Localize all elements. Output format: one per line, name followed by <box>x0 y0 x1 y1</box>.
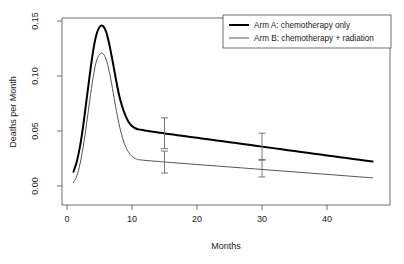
legend-border <box>223 15 391 48</box>
legend-label-arm-b: Arm B: chemotherapy + radiation <box>254 34 374 43</box>
y-tick-label: 0.05 <box>30 122 40 140</box>
x-axis-title: Months <box>211 241 241 251</box>
y-axis-title: Deaths per Month <box>8 76 18 148</box>
x-tick-label: 0 <box>64 214 69 224</box>
legend-label-arm-a: Arm A: chemotherapy only <box>254 21 351 30</box>
x-tick-label: 10 <box>127 214 137 224</box>
y-tick-label: 0.15 <box>30 12 40 30</box>
y-tick-label: 0.00 <box>30 177 40 195</box>
x-tick-label: 20 <box>192 214 202 224</box>
x-tick-label: 30 <box>257 214 267 224</box>
x-tick-label: 40 <box>322 214 332 224</box>
chart-container: 010203040 0.000.050.100.15 Months Deaths… <box>0 0 404 264</box>
y-tick-label: 0.10 <box>30 67 40 85</box>
chart-legend: Arm A: chemotherapy only Arm B: chemothe… <box>223 15 391 48</box>
chart-svg: 010203040 0.000.050.100.15 Months Deaths… <box>0 0 404 264</box>
